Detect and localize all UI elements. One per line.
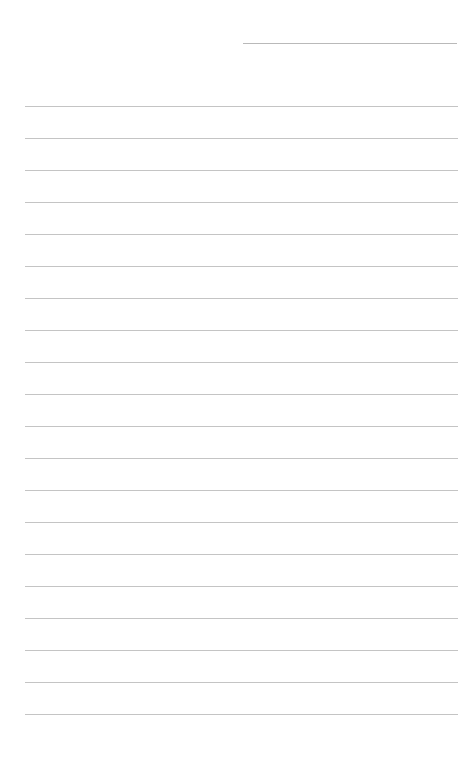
ruled-line: [25, 202, 458, 203]
ruled-line: [25, 362, 458, 363]
ruled-line: [25, 714, 458, 715]
header-name-line: [243, 43, 457, 44]
notepaper-page: [0, 0, 474, 762]
ruled-line: [25, 138, 458, 139]
ruled-line: [25, 554, 458, 555]
ruled-line: [25, 522, 458, 523]
ruled-line: [25, 170, 458, 171]
ruled-line: [25, 234, 458, 235]
ruled-line: [25, 330, 458, 331]
ruled-line: [25, 618, 458, 619]
ruled-line: [25, 682, 458, 683]
ruled-line: [25, 650, 458, 651]
ruled-line: [25, 394, 458, 395]
ruled-line: [25, 298, 458, 299]
ruled-line: [25, 426, 458, 427]
ruled-line: [25, 490, 458, 491]
ruled-line: [25, 458, 458, 459]
ruled-line: [25, 106, 458, 107]
ruled-line: [25, 586, 458, 587]
ruled-line: [25, 266, 458, 267]
